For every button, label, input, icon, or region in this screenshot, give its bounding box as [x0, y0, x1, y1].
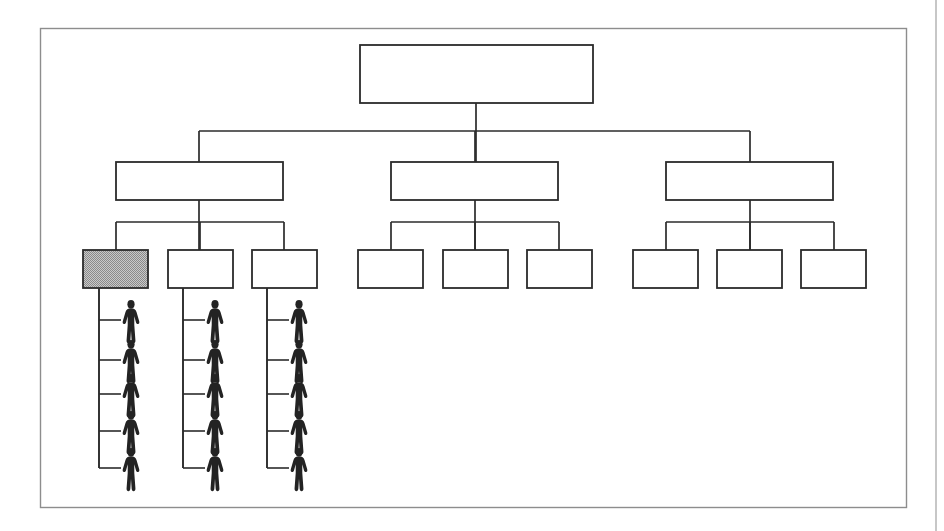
- org-node-root[interactable]: [360, 45, 593, 103]
- org-node-l2-left[interactable]: [116, 162, 283, 200]
- org-node-l3-mid-3[interactable]: [527, 250, 592, 288]
- person-icon[interactable]: [123, 411, 140, 454]
- staff-icon-layer: [123, 300, 308, 491]
- org-node-l3-left-3[interactable]: [252, 250, 317, 288]
- person-icon[interactable]: [291, 448, 308, 491]
- person-icon[interactable]: [291, 300, 308, 343]
- org-node-l3-right-1[interactable]: [633, 250, 698, 288]
- org-node-l3-left-1-highlighted[interactable]: [83, 250, 148, 288]
- person-icon[interactable]: [207, 300, 224, 343]
- person-icon[interactable]: [123, 300, 140, 343]
- org-chart-diagram: [0, 0, 944, 531]
- org-node-l2-right[interactable]: [666, 162, 833, 200]
- scanned-page: [0, 0, 944, 531]
- person-icon[interactable]: [207, 448, 224, 491]
- person-icon[interactable]: [123, 374, 140, 417]
- org-node-l3-mid-2[interactable]: [443, 250, 508, 288]
- org-node-l3-right-3[interactable]: [801, 250, 866, 288]
- person-icon[interactable]: [291, 411, 308, 454]
- org-node-l2-mid[interactable]: [391, 162, 558, 200]
- org-node-l3-right-2[interactable]: [717, 250, 782, 288]
- org-node-l3-mid-1[interactable]: [358, 250, 423, 288]
- org-node-l3-left-2[interactable]: [168, 250, 233, 288]
- person-icon[interactable]: [123, 448, 140, 491]
- person-icon[interactable]: [207, 411, 224, 454]
- person-icon[interactable]: [291, 374, 308, 417]
- person-icon[interactable]: [207, 374, 224, 417]
- node-layer: [83, 45, 866, 288]
